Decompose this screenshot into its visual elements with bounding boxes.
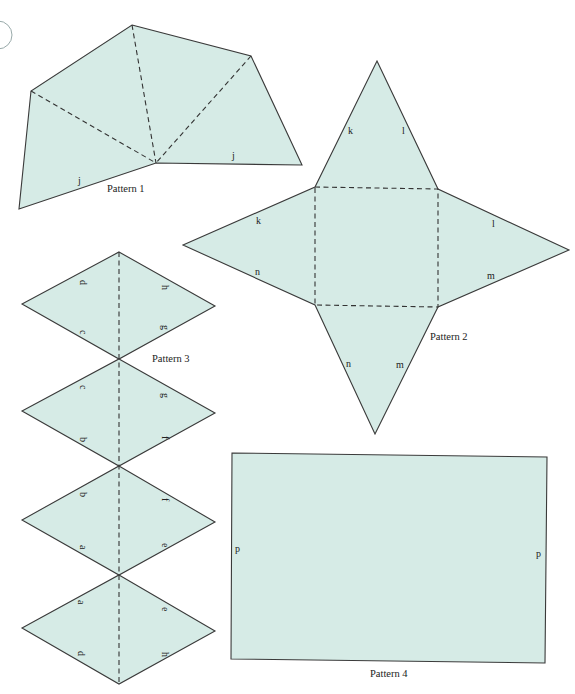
svg-text:g: g: [160, 325, 171, 330]
edge-label: n: [255, 266, 260, 277]
pattern-caption: Pattern 4: [370, 668, 408, 679]
svg-text:a: a: [78, 545, 89, 550]
svg-text:d: d: [76, 651, 87, 656]
svg-text:d: d: [78, 280, 89, 285]
edge-label: j: [77, 175, 81, 186]
edge-label: l: [402, 125, 405, 136]
edge-label: p: [235, 543, 240, 554]
edge-label: k: [256, 215, 261, 226]
pattern-4: p p Pattern 4: [231, 453, 547, 679]
svg-text:b: b: [78, 492, 89, 497]
edge-label: p: [536, 548, 541, 559]
svg-text:c: c: [78, 330, 89, 335]
svg-text:a: a: [76, 600, 87, 605]
edge-label: n: [346, 358, 351, 369]
decorative-circle: [0, 21, 12, 49]
pattern-caption: Pattern 3: [152, 353, 190, 364]
svg-text:e: e: [160, 607, 171, 612]
svg-text:h: h: [160, 652, 171, 657]
svg-text:g: g: [160, 393, 171, 398]
edge-label: k: [348, 125, 353, 136]
pattern-1: j j Pattern 1: [19, 25, 302, 209]
patterns-figure: j j Pattern 1 k l k l n m n m Pattern 2 …: [0, 0, 575, 694]
svg-text:e: e: [160, 543, 171, 548]
edge-label: j: [231, 150, 235, 161]
edge-label: m: [487, 270, 495, 281]
pattern-3: d h c g c g b f b f a e a e d h Pattern …: [22, 252, 215, 684]
svg-text:c: c: [78, 385, 89, 390]
svg-text:b: b: [78, 437, 89, 442]
edge-label: l: [492, 218, 495, 229]
edge-label: m: [396, 359, 404, 370]
svg-text:h: h: [160, 285, 171, 290]
pattern-caption: Pattern 1: [107, 183, 145, 194]
pattern-caption: Pattern 2: [430, 331, 468, 342]
